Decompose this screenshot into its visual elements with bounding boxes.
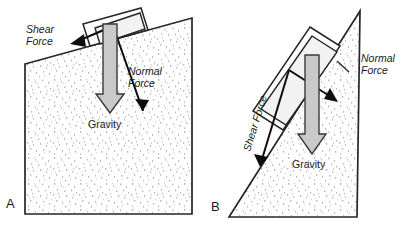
panel-b: Shear Force Normal Force Gravity B bbox=[211, 11, 396, 217]
figure-root: Shear Force Normal Force Gravity A bbox=[0, 0, 411, 237]
panel-a-shear-force-label-line2: Force bbox=[26, 35, 53, 47]
panel-a: Shear Force Normal Force Gravity A bbox=[6, 8, 192, 214]
panel-b-normal-force-label-line2: Force bbox=[361, 64, 388, 76]
panel-b-normal-force-label-line1: Normal bbox=[361, 52, 396, 64]
panel-a-gravity-label: Gravity bbox=[88, 118, 122, 130]
panel-b-gravity-label: Gravity bbox=[292, 158, 326, 170]
panel-a-panel-label: A bbox=[6, 196, 15, 211]
panel-b-panel-label: B bbox=[211, 199, 220, 214]
panel-a-shear-force-label-line1: Shear bbox=[26, 23, 55, 35]
panel-a-normal-force-label-line1: Normal bbox=[128, 65, 163, 77]
panel-a-normal-force-label-line2: Force bbox=[128, 77, 155, 89]
panel-b-shear-force-label: Shear Force bbox=[240, 94, 268, 153]
slope-stability-diagram: Shear Force Normal Force Gravity A bbox=[0, 0, 411, 237]
